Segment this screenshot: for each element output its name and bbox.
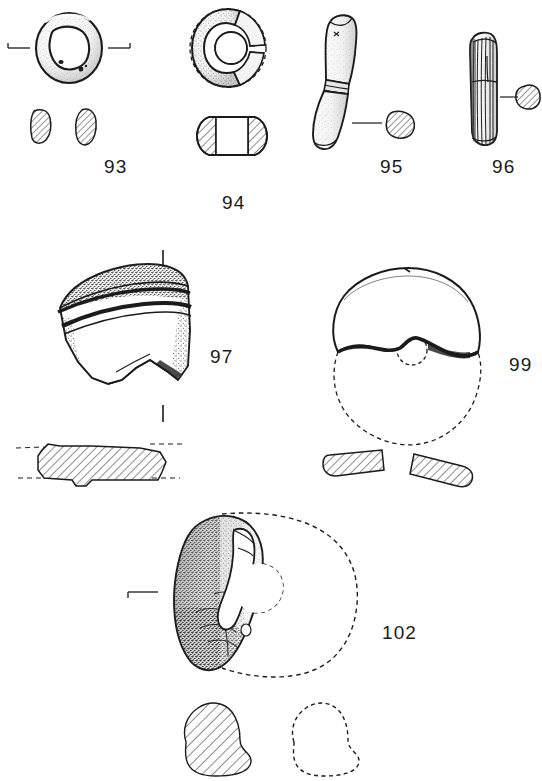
figure-97 bbox=[16, 250, 192, 486]
figure-93-section-left bbox=[31, 110, 51, 144]
figure-96-elevation-view bbox=[470, 33, 497, 146]
figure-102 bbox=[128, 508, 359, 776]
figure-label-102: 102 bbox=[382, 622, 417, 644]
figure-93-section-right bbox=[76, 109, 96, 145]
figure-93-plan-view bbox=[36, 13, 102, 83]
figure-102-axis-mark bbox=[128, 592, 158, 598]
figure-96-section bbox=[500, 85, 540, 109]
figure-102-section-hatched bbox=[185, 703, 252, 776]
figure-94 bbox=[190, 9, 267, 155]
artefact-plate: 93 94 95 96 97 99 102 bbox=[0, 0, 542, 781]
figure-label-96: 96 bbox=[492, 156, 515, 178]
figure-label-95: 95 bbox=[380, 156, 403, 178]
figure-99-section-left bbox=[323, 450, 384, 476]
figure-93-axis-mark-left bbox=[8, 43, 30, 48]
figure-94-profile-view bbox=[197, 117, 267, 155]
figure-95 bbox=[313, 15, 414, 149]
figure-label-97: 97 bbox=[210, 346, 233, 368]
figure-99-section-right bbox=[410, 454, 473, 487]
figure-label-93: 93 bbox=[104, 156, 127, 178]
figure-97-profile-section bbox=[16, 444, 182, 486]
figure-93 bbox=[8, 13, 130, 145]
figure-99-plan-view bbox=[333, 259, 481, 445]
figure-label-99: 99 bbox=[509, 354, 532, 376]
figure-label-94: 94 bbox=[222, 192, 245, 214]
plate-drawing bbox=[0, 0, 542, 781]
figure-95-section bbox=[352, 111, 414, 138]
figure-97-exterior-view bbox=[55, 262, 192, 384]
figure-95-elevation-view bbox=[313, 15, 357, 149]
figure-102-plan-view bbox=[170, 508, 357, 678]
figure-99 bbox=[323, 259, 481, 487]
figure-94-plan-view bbox=[190, 9, 266, 87]
figure-102-section-dashed bbox=[293, 703, 360, 776]
figure-93-axis-mark-right bbox=[108, 43, 130, 48]
figure-96 bbox=[470, 33, 540, 146]
